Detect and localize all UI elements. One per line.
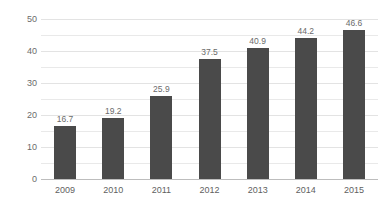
x-axis-tick-label: 2009 bbox=[55, 186, 75, 195]
bar bbox=[199, 59, 221, 179]
y-axis-tick-label: 50 bbox=[3, 15, 37, 24]
bar-value-label: 40.9 bbox=[249, 37, 266, 46]
y-axis-tick-label: 40 bbox=[3, 47, 37, 56]
bar-value-label: 46.6 bbox=[346, 19, 363, 28]
y-axis-tick-label: 0 bbox=[3, 175, 37, 184]
x-axis-tick-label: 2012 bbox=[199, 186, 219, 195]
x-axis-tick-label: 2013 bbox=[248, 186, 268, 195]
bar-value-label: 25.9 bbox=[153, 85, 170, 94]
bar bbox=[295, 38, 317, 179]
bar bbox=[102, 118, 124, 179]
y-axis-tick-label: 20 bbox=[3, 111, 37, 120]
bar-value-label: 37.5 bbox=[201, 48, 218, 57]
x-axis-tick-label: 2014 bbox=[296, 186, 316, 195]
bar-chart: 01020304050 16.7200919.2201025.9201137.5… bbox=[0, 0, 390, 210]
bar bbox=[247, 48, 269, 179]
x-axis-tick-label: 2011 bbox=[152, 186, 171, 195]
gridline bbox=[41, 35, 378, 36]
x-axis-tick-label: 2010 bbox=[103, 186, 123, 195]
gridline bbox=[41, 19, 378, 20]
y-axis-tick-label: 30 bbox=[3, 79, 37, 88]
bar bbox=[343, 30, 365, 179]
plot-area bbox=[41, 19, 378, 179]
x-axis-line bbox=[41, 179, 378, 180]
bar-value-label: 19.2 bbox=[105, 107, 122, 116]
y-axis-tick-label: 10 bbox=[3, 143, 37, 152]
x-axis-tick-label: 2015 bbox=[344, 186, 364, 195]
bar bbox=[54, 126, 76, 179]
y-axis: 01020304050 bbox=[0, 19, 37, 179]
bar bbox=[150, 96, 172, 179]
bar-value-label: 44.2 bbox=[298, 27, 315, 36]
bar-value-label: 16.7 bbox=[57, 115, 74, 124]
